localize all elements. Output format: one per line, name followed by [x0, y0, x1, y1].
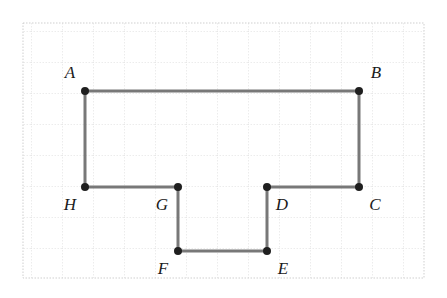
- vertex-label-e: E: [277, 259, 289, 278]
- vertex-point-d: [263, 183, 271, 191]
- vertex-label-c: C: [369, 195, 381, 214]
- vertex-label-g: G: [156, 195, 168, 214]
- vertex-label-a: A: [64, 63, 76, 82]
- vertex-point-a: [81, 87, 89, 95]
- vertex-point-e: [263, 247, 271, 255]
- vertex-label-f: F: [157, 259, 169, 278]
- vertex-point-c: [355, 183, 363, 191]
- figure-canvas: ABCDEFGH: [0, 0, 447, 298]
- vertex-point-b: [355, 87, 363, 95]
- geometry-figure: ABCDEFGH: [0, 0, 447, 298]
- vertex-label-h: H: [63, 195, 78, 214]
- vertex-point-f: [174, 247, 182, 255]
- grid-background: [23, 23, 424, 278]
- vertex-point-h: [81, 183, 89, 191]
- vertex-label-b: B: [371, 63, 382, 82]
- vertex-label-d: D: [275, 195, 289, 214]
- vertex-point-g: [174, 183, 182, 191]
